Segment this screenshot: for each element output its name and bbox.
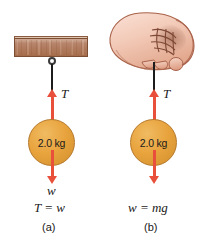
grip-shadow xyxy=(146,24,186,56)
caption-b: (b) xyxy=(144,221,157,233)
panel-a: T 2.0 kg w T = w (a) xyxy=(0,0,102,243)
equation-a: T = w xyxy=(34,200,65,216)
tension-label-b: T xyxy=(163,86,170,102)
tension-arrow-shaft-a xyxy=(51,95,54,121)
tension-arrow-head-b xyxy=(149,89,159,97)
tension-label-a: T xyxy=(61,86,68,102)
finger-bump-3 xyxy=(169,58,183,71)
weight-label-a: w xyxy=(47,183,56,199)
ceiling-beam xyxy=(14,38,88,57)
weight-arrow-shaft-b xyxy=(153,150,156,178)
weight-arrow-head-b xyxy=(149,176,159,184)
tension-arrow-shaft-b xyxy=(153,95,156,121)
panel-b: T 2.0 kg w = mg (b) xyxy=(102,0,204,243)
mass-value-a: 2.0 kg xyxy=(38,137,65,149)
weight-arrow-shaft-a xyxy=(51,150,54,178)
tension-arrow-head-a xyxy=(47,89,57,97)
physics-figure: T 2.0 kg w T = w (a) xyxy=(0,0,204,243)
caption-a: (a) xyxy=(42,221,55,233)
mass-value-b: 2.0 kg xyxy=(140,137,167,149)
hand-illustration xyxy=(106,8,204,80)
equation-b: w = mg xyxy=(128,200,168,216)
hand-icon xyxy=(106,8,204,80)
ceiling-beam-grain xyxy=(16,40,86,55)
